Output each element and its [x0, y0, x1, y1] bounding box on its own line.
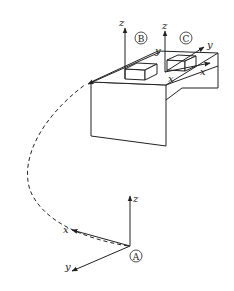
frame-A-marker-label: A [132, 252, 140, 262]
frame-A [72, 196, 130, 271]
frame-A-z-label: z [132, 193, 139, 204]
coordinate-frames-diagram: z y B z y x x C z x y A [0, 0, 234, 291]
front-face [91, 82, 166, 146]
frame-A-x-axis [72, 230, 130, 246]
frame-B-marker-label: B [138, 34, 145, 44]
frame-A-y-axis [72, 246, 130, 271]
frame-B-y-label: y [154, 45, 161, 56]
frame-C-marker-label: C [183, 34, 190, 44]
frame-A-x-label: x [63, 224, 69, 235]
frame-C-z-label: z [161, 20, 168, 31]
frame-A-y-label: y [64, 261, 71, 272]
frame-C-x-label: x [200, 66, 206, 77]
rail-lower-edge [166, 88, 182, 100]
frame-B-z-label: z [118, 17, 125, 28]
frame-B-x-label: x [168, 73, 174, 84]
frame-C-y-label: y [206, 39, 213, 50]
